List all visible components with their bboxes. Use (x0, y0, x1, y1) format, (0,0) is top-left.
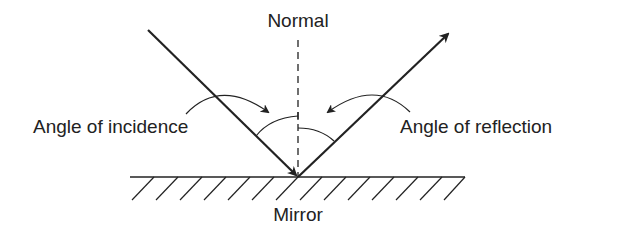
normal-label: Normal (267, 10, 328, 31)
reflection-diagram: Normal Angle of incidence Angle of refle… (0, 0, 618, 236)
incidence-angle-arc (256, 112, 298, 136)
incidence-pointer-arrow (186, 95, 268, 114)
incident-ray (148, 30, 296, 175)
incidence-label: Angle of incidence (33, 116, 188, 137)
mirror-label: Mirror (273, 204, 323, 225)
reflection-angle-arc (298, 128, 334, 141)
mirror-hatching (132, 177, 465, 200)
reflection-label: Angle of reflection (400, 116, 552, 137)
reflected-ray (298, 34, 448, 177)
mirror-surface (130, 177, 465, 200)
